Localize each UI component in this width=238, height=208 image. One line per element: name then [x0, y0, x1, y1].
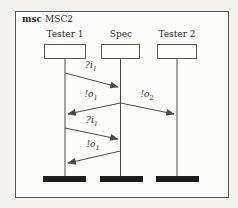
- message-arrow-5-out1: [68, 151, 121, 163]
- message-label-4-sub: 1: [94, 120, 98, 128]
- message-label-3: !o2: [140, 89, 153, 99]
- instance-label-tester1: Tester 1: [35, 29, 95, 39]
- end-bar-tester2: [156, 176, 199, 182]
- message-label-5-main: !o: [86, 139, 95, 149]
- message-label-4-main: ?i: [86, 115, 94, 125]
- message-label-3-main: !o: [140, 89, 149, 99]
- instance-label-spec: Spec: [91, 29, 151, 39]
- message-label-2-main: !o: [84, 89, 93, 99]
- end-bar-spec: [100, 176, 143, 182]
- instance-head-tester2: [157, 44, 197, 59]
- instance-head-spec: [101, 44, 140, 59]
- msc-diagram-page: mscMSC2 Tester 1 Spec Tester 2 ?i1 !o1 !…: [0, 0, 238, 208]
- message-label-1-main: ?i: [85, 60, 93, 70]
- msc-name: MSC2: [45, 14, 73, 24]
- end-bar-tester1: [43, 176, 86, 182]
- message-label-5: !o1: [86, 139, 99, 149]
- message-label-1-sub: 1: [93, 65, 97, 73]
- message-arrow-1-in1: [65, 73, 118, 87]
- msc-keyword: msc: [22, 14, 42, 24]
- instance-head-tester1: [44, 44, 86, 59]
- message-label-3-sub: 2: [149, 94, 153, 102]
- message-label-5-sub: 1: [95, 144, 99, 152]
- instance-label-tester2: Tester 2: [147, 29, 207, 39]
- message-label-4: ?i1: [86, 115, 98, 125]
- message-arrow-4-in1: [65, 128, 118, 139]
- message-arrow-2-out1: [68, 103, 121, 114]
- diagram-title: mscMSC2: [22, 14, 73, 24]
- message-label-2: !o1: [84, 89, 97, 99]
- message-label-1: ?i1: [85, 60, 97, 70]
- message-arrow-3-out2: [121, 103, 175, 114]
- message-label-2-sub: 1: [93, 94, 97, 102]
